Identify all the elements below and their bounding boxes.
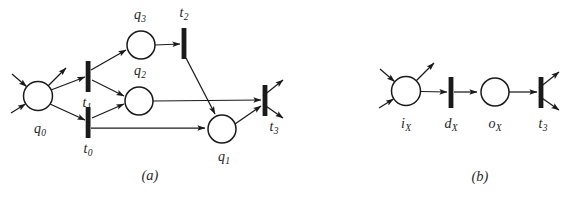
label-place-oX: oX [488, 117, 501, 133]
arc-iX-to-dX [421, 92, 447, 93]
arc-iX-to-env-upper [416, 63, 434, 81]
transition-t2 [182, 28, 187, 59]
arc-q0-to-t0 [50, 104, 85, 120]
place-q1 [208, 115, 236, 143]
arc-q0-to-t1 [51, 77, 85, 90]
arc-q3-to-t2 [155, 44, 180, 45]
label-place-q1: q1 [218, 150, 230, 166]
place-oX [481, 78, 509, 106]
arc-env-to-q0-upper [12, 74, 27, 87]
label-transition-t3-b: t3 [539, 117, 548, 133]
transition-t1 [86, 61, 91, 92]
label-transition-t2: t2 [180, 6, 189, 22]
arc-t1-to-q3 [91, 50, 126, 70]
arc-t1-to-q2 [92, 80, 124, 96]
arc-q1-to-t3 [235, 106, 261, 124]
caption-b: (b) [472, 168, 489, 185]
label-place-iX: iX [401, 117, 411, 133]
label-transition-t3-a: t3 [270, 120, 279, 136]
arc-q0-to-env-upper [48, 68, 66, 86]
transition-t3-b [539, 77, 544, 108]
arc-t2-to-q1 [186, 58, 215, 114]
arc-env-to-q0-lower [11, 104, 26, 113]
place-q3 [127, 31, 155, 59]
label-transition-dX: dX [444, 117, 457, 133]
label-place-q2: q2 [134, 64, 146, 80]
place-iX [392, 77, 421, 106]
label-transition-t1: t1 [83, 96, 92, 112]
transition-dX [449, 77, 454, 108]
transition-t3-a [263, 85, 268, 116]
arc-env-to-iX-upper [380, 69, 395, 82]
arc-q2-to-t3 [153, 100, 261, 101]
place-q2 [125, 87, 153, 115]
label-place-q3: q3 [134, 8, 146, 24]
caption-a: (a) [142, 167, 159, 184]
label-place-q0: q0 [34, 122, 46, 138]
arc-t0-to-q2 [92, 104, 124, 118]
arc-env-to-iX-lower [379, 99, 394, 108]
label-transition-t0: t0 [84, 142, 93, 158]
place-q0 [24, 82, 53, 111]
figure-canvas: q0 q3 q2 q1 t1 t0 t2 t3 (a) iX oX dX t3 … [0, 0, 577, 197]
